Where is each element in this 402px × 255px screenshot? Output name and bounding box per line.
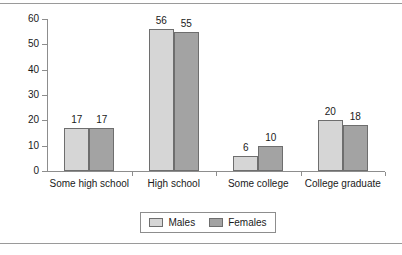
legend-item-males: Males	[149, 218, 195, 228]
bar-males-2	[233, 156, 258, 171]
chart-legend: MalesFemales	[140, 212, 276, 233]
x-axis-tick	[301, 172, 302, 176]
bar-males-3	[318, 120, 343, 171]
legend-swatch-icon	[149, 218, 163, 227]
x-axis-label-2: Some college	[216, 178, 301, 190]
bar-males-0	[64, 128, 89, 171]
x-axis-tick	[385, 172, 386, 176]
legend-item-females: Females	[209, 218, 266, 228]
x-axis-label-0: Some high school	[47, 178, 132, 190]
y-axis-tick-label: 10	[18, 141, 39, 151]
figure-bottom-rule	[0, 243, 402, 244]
x-axis-label-3: College graduate	[301, 178, 386, 190]
legend-label: Females	[228, 218, 266, 228]
bar-value-label: 17	[83, 115, 120, 125]
y-axis-tick-label: 30	[18, 90, 39, 100]
y-axis-tick-label: 60	[18, 14, 39, 24]
y-axis-tick	[42, 171, 47, 172]
y-axis-tick-label: 20	[18, 115, 39, 125]
y-axis-tick-label: 0	[18, 166, 39, 176]
x-axis-label-1: High school	[132, 178, 217, 190]
bar-value-label: 10	[252, 133, 289, 143]
x-axis-tick	[216, 172, 217, 176]
y-axis-tick-label: 40	[18, 65, 39, 75]
bar-males-1	[149, 29, 174, 171]
x-axis-tick	[132, 172, 133, 176]
bar-chart-figure: 0102030405060 171756556102018 Some high …	[0, 0, 402, 255]
legend-label: Males	[168, 218, 195, 228]
bar-females-2	[258, 146, 283, 171]
bar-females-0	[89, 128, 114, 171]
y-axis-tick-label: 50	[18, 39, 39, 49]
bar-value-label: 55	[168, 19, 205, 29]
bar-value-label: 18	[337, 112, 374, 122]
figure-top-rule	[0, 3, 402, 4]
bar-females-1	[174, 32, 199, 171]
plot-area: 171756556102018	[47, 19, 385, 171]
legend-swatch-icon	[209, 218, 223, 227]
bar-females-3	[343, 125, 368, 171]
